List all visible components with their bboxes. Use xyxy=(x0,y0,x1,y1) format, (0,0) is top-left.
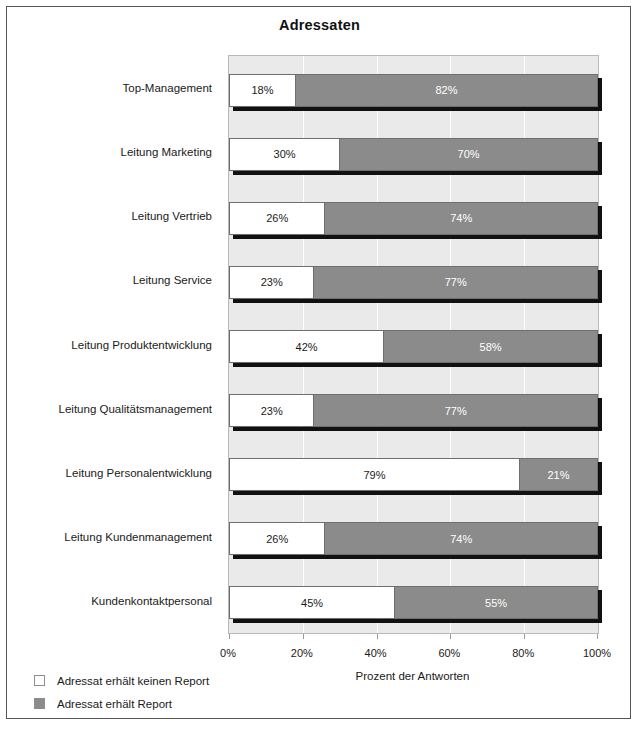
bar-row: 45%55% xyxy=(229,586,598,622)
stacked-bar: 26%74% xyxy=(229,522,598,555)
category-label: Top-Management xyxy=(0,82,212,94)
x-axis-title: Prozent der Antworten xyxy=(228,670,597,682)
chart-legend: Adressat erhält keinen Report Adressat e… xyxy=(34,669,209,715)
category-label: Leitung Personalentwicklung xyxy=(0,467,212,479)
bar-segment-report: 58% xyxy=(384,331,597,362)
axis-tick xyxy=(229,634,230,639)
x-tick-label: 20% xyxy=(272,647,332,659)
x-tick-label: 40% xyxy=(346,647,406,659)
legend-item: Adressat erhält keinen Report xyxy=(34,669,209,692)
bar-row: 18%82% xyxy=(229,74,598,110)
legend-label: Adressat erhält keinen Report xyxy=(57,675,209,687)
bar-segment-no-report: 79% xyxy=(230,459,520,490)
x-tick-label: 100% xyxy=(567,647,627,659)
bar-row: 23%77% xyxy=(229,266,598,302)
axis-tick xyxy=(450,634,451,639)
axis-tick xyxy=(597,634,598,639)
x-tick-label: 60% xyxy=(419,647,479,659)
bar-segment-no-report: 26% xyxy=(230,203,325,234)
stacked-bar: 23%77% xyxy=(229,266,598,299)
bar-row: 23%77% xyxy=(229,394,598,430)
legend-label: Adressat erhält Report xyxy=(57,698,172,710)
category-label: Leitung Marketing xyxy=(0,146,212,158)
legend-swatch-no-report xyxy=(34,675,45,686)
category-label: Leitung Produktentwicklung xyxy=(0,339,212,351)
bar-segment-report: 82% xyxy=(296,75,597,106)
category-label: Kundenkontaktpersonal xyxy=(0,595,212,607)
stacked-bar: 26%74% xyxy=(229,202,598,235)
category-label: Leitung Qualitätsmanagement xyxy=(0,403,212,415)
stacked-bar: 45%55% xyxy=(229,586,598,619)
bar-row: 30%70% xyxy=(229,138,598,174)
axis-tick xyxy=(524,634,525,639)
bar-row: 26%74% xyxy=(229,522,598,558)
bar-segment-no-report: 23% xyxy=(230,267,314,298)
figure-frame: Adressaten 18%82%30%70%26%74%23%77%42%58… xyxy=(6,6,631,719)
bar-segment-no-report: 42% xyxy=(230,331,384,362)
stacked-bar: 18%82% xyxy=(229,74,598,107)
category-label: Leitung Vertrieb xyxy=(0,210,212,222)
plot-area: 18%82%30%70%26%74%23%77%42%58%23%77%79%2… xyxy=(228,55,599,634)
category-label: Leitung Kundenmanagement xyxy=(0,531,212,543)
stacked-bar: 42%58% xyxy=(229,330,598,363)
axis-tick xyxy=(303,634,304,639)
bar-segment-report: 55% xyxy=(395,587,597,618)
bar-segment-report: 70% xyxy=(340,139,597,170)
bar-row: 26%74% xyxy=(229,202,598,238)
category-label: Leitung Service xyxy=(0,274,212,286)
bar-row: 42%58% xyxy=(229,330,598,366)
bar-segment-report: 77% xyxy=(314,267,597,298)
bar-segment-report: 77% xyxy=(314,395,597,426)
bar-segment-no-report: 18% xyxy=(230,75,296,106)
bar-segment-no-report: 26% xyxy=(230,523,325,554)
bar-segment-report: 21% xyxy=(520,459,597,490)
stacked-bar: 23%77% xyxy=(229,394,598,427)
bar-segment-no-report: 45% xyxy=(230,587,395,618)
axis-tick xyxy=(377,634,378,639)
x-tick-label: 80% xyxy=(493,647,553,659)
bar-row: 79%21% xyxy=(229,458,598,494)
bar-segment-report: 74% xyxy=(325,523,597,554)
bar-segment-report: 74% xyxy=(325,203,597,234)
stacked-bar: 79%21% xyxy=(229,458,598,491)
chart-title: Adressaten xyxy=(7,17,632,33)
bar-segment-no-report: 30% xyxy=(230,139,340,170)
bar-segment-no-report: 23% xyxy=(230,395,314,426)
stacked-bar: 30%70% xyxy=(229,138,598,171)
legend-item: Adressat erhält Report xyxy=(34,692,209,715)
x-tick-label: 0% xyxy=(198,647,258,659)
legend-swatch-report xyxy=(34,698,45,709)
